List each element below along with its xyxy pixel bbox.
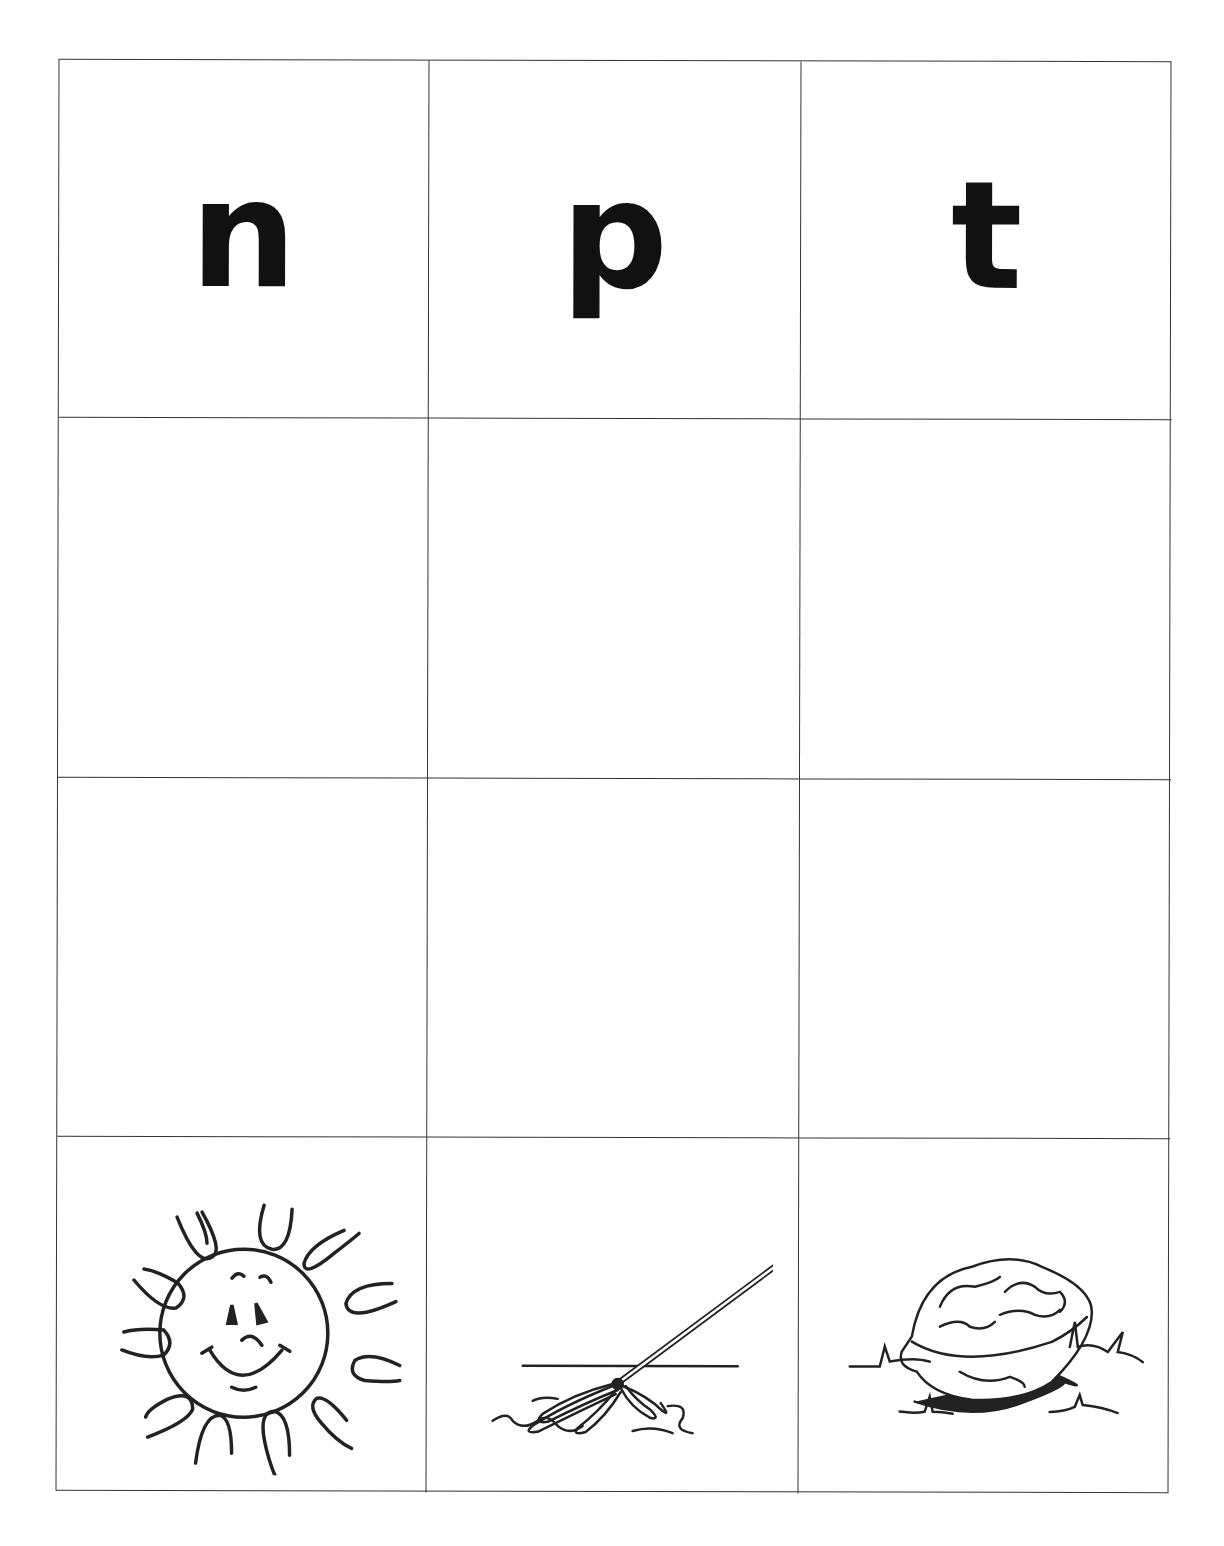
- picture-card-sun[interactable]: [56, 1137, 427, 1493]
- drop-cell-t-1[interactable]: [800, 419, 1172, 780]
- letter-cell-t: t: [801, 61, 1173, 420]
- sorting-grid: n p t: [56, 59, 1172, 1493]
- nut-icon: [819, 1156, 1150, 1477]
- letter-cell-p: p: [429, 61, 802, 420]
- drop-cell-t-2[interactable]: [799, 779, 1171, 1139]
- picture-card-mop[interactable]: [426, 1138, 799, 1494]
- mop-icon: [452, 1155, 773, 1476]
- sun-icon: [81, 1154, 402, 1475]
- drop-cell-n-2[interactable]: [57, 778, 428, 1138]
- letter-p: p: [561, 159, 669, 309]
- drop-cell-n-1[interactable]: [58, 418, 429, 779]
- letter-t: t: [951, 160, 1023, 310]
- letter-cell-n: n: [59, 60, 430, 419]
- letter-n: n: [190, 159, 297, 309]
- picture-card-nut[interactable]: [798, 1138, 1170, 1494]
- drop-cell-p-1[interactable]: [428, 419, 801, 780]
- drop-cell-p-2[interactable]: [427, 779, 800, 1139]
